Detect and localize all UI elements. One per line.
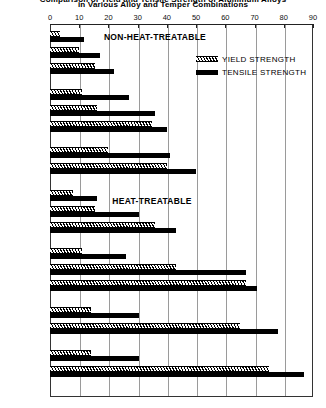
- bar-row: 5052-0: [0, 88, 326, 103]
- bar-row: 2024-T86: [0, 279, 326, 294]
- tensile-strength-bar: [50, 169, 196, 174]
- bar-row: 5083-0: [0, 146, 326, 161]
- legend-item: TENSILE STRENGTH: [196, 66, 322, 79]
- tensile-strength-bar: [50, 196, 97, 201]
- chart-subtitle: in Various Alloy and Temper Combinations: [0, 0, 326, 10]
- bar-row: 2024-T3: [0, 263, 326, 278]
- tensile-swatch-icon: [196, 70, 218, 75]
- x-tick-label-50: 50: [192, 13, 200, 22]
- bar-row: 6061-T4: [0, 205, 326, 220]
- legend-item: YIELD STRENGTH: [196, 53, 322, 66]
- tensile-strength-bar: [50, 270, 246, 275]
- x-tick-label-80: 80: [280, 13, 288, 22]
- x-axis-tick-labels: 0102030405060708090: [0, 13, 326, 23]
- tensile-strength-bar: [50, 286, 257, 291]
- x-tickmark-90: [313, 24, 314, 28]
- tensile-strength-bar: [50, 37, 84, 42]
- tensile-strength-bar: [50, 153, 170, 158]
- tensile-strength-bar: [50, 372, 304, 377]
- x-tick-label-0: 0: [48, 13, 52, 22]
- annotation-heat-treatable: HEAT-TREATABLE: [112, 196, 191, 206]
- legend-label: TENSILE STRENGTH: [222, 66, 306, 79]
- tensile-strength-bar: [50, 111, 155, 116]
- tensile-strength-bar: [50, 228, 176, 233]
- tensile-strength-bar: [50, 254, 126, 259]
- bar-row: 2024-0: [0, 247, 326, 262]
- bar-row: 7178-0: [0, 349, 326, 364]
- x-tick-label-40: 40: [163, 13, 171, 22]
- strength-comparison-chart: Comparison of Yield and Tensile Strength…: [0, 0, 326, 408]
- tensile-strength-bar: [50, 127, 167, 132]
- bar-row: 5083-H343: [0, 162, 326, 177]
- x-tick-label-70: 70: [250, 13, 258, 22]
- yield-swatch-icon: [196, 56, 218, 62]
- x-tick-label-90: 90: [309, 13, 317, 22]
- tensile-strength-bar: [50, 356, 139, 361]
- bar-row: 6061-T6: [0, 221, 326, 236]
- bar-row: 7075-0: [0, 306, 326, 321]
- bar-row: 7075-T6: [0, 322, 326, 337]
- tensile-strength-bar: [50, 212, 139, 217]
- chart-legend: YIELD STRENGTHTENSILE STRENGTH: [196, 53, 322, 79]
- x-tick-label-60: 60: [221, 13, 229, 22]
- x-tick-label-20: 20: [104, 13, 112, 22]
- legend-label: YIELD STRENGTH: [222, 53, 296, 66]
- annotation-non-heat-treatable: NON-HEAT-TREATABLE: [104, 32, 206, 42]
- bar-row: 5052-H34: [0, 104, 326, 119]
- x-tick-label-10: 10: [75, 13, 83, 22]
- tensile-strength-bar: [50, 69, 114, 74]
- tensile-strength-bar: [50, 329, 278, 334]
- tensile-strength-bar: [50, 95, 129, 100]
- tensile-strength-bar: [50, 313, 139, 318]
- bar-row: 7178-T6: [0, 365, 326, 380]
- x-tick-label-30: 30: [133, 13, 141, 22]
- tensile-strength-bar: [50, 53, 100, 58]
- bar-row: 5052-H38: [0, 120, 326, 135]
